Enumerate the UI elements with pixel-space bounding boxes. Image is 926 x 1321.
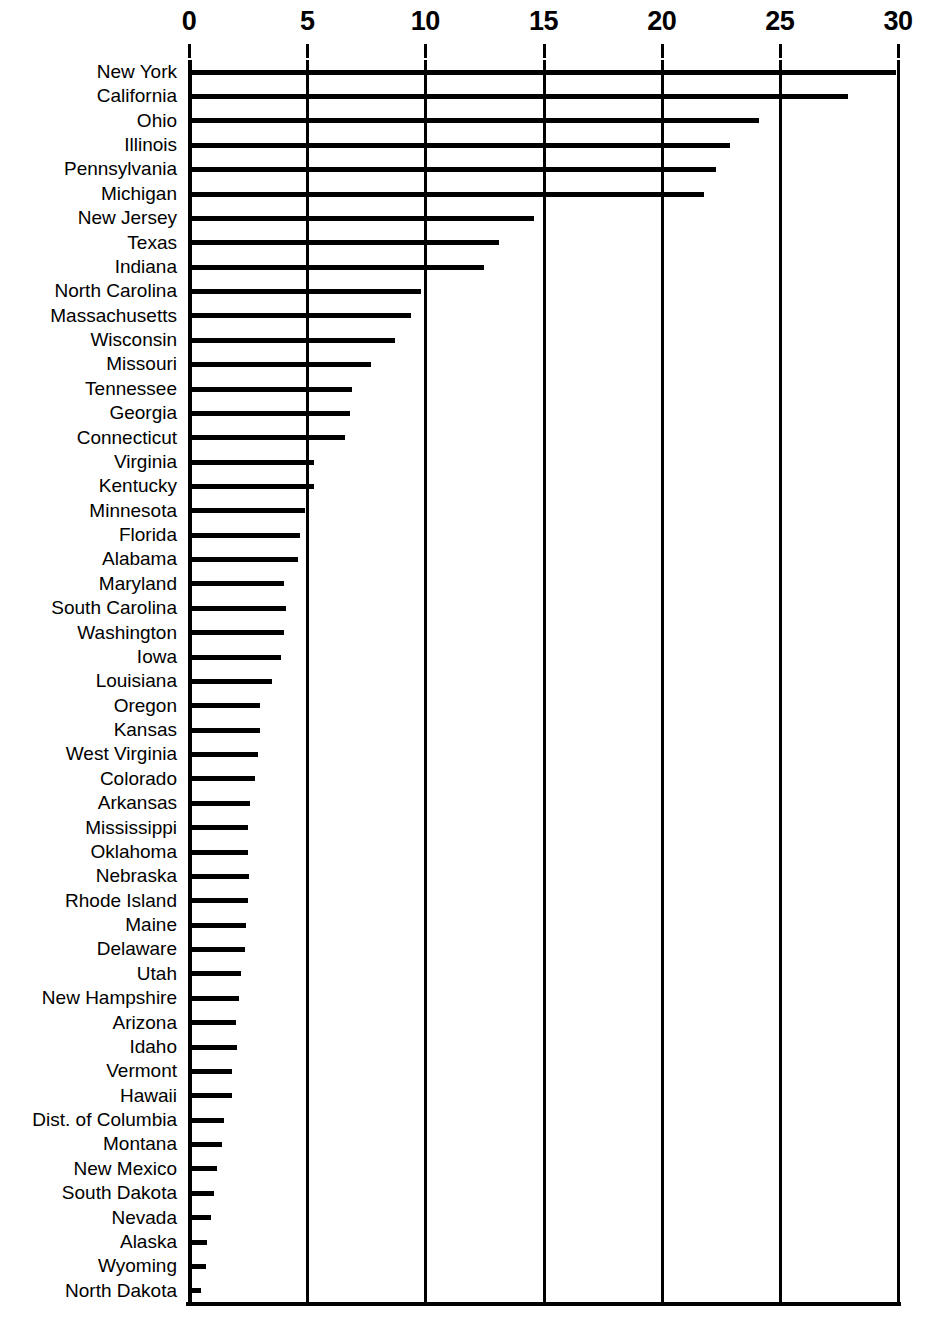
bar-row[interactable] xyxy=(189,304,898,328)
bar-row[interactable] xyxy=(189,1035,898,1059)
bar-row[interactable] xyxy=(189,791,898,815)
bar-row[interactable] xyxy=(189,1084,898,1108)
bar-row[interactable] xyxy=(189,182,898,206)
bar-row[interactable] xyxy=(189,840,898,864)
bar-row[interactable] xyxy=(189,986,898,1010)
bar-row[interactable] xyxy=(189,621,898,645)
bar-row[interactable] xyxy=(189,255,898,279)
bar-row[interactable] xyxy=(189,109,898,133)
bar[interactable] xyxy=(189,1093,232,1098)
bar-row[interactable] xyxy=(189,1254,898,1278)
bar[interactable] xyxy=(189,1118,224,1123)
bar-row[interactable] xyxy=(189,816,898,840)
bar[interactable] xyxy=(189,679,272,684)
bar[interactable] xyxy=(189,1142,222,1147)
bar[interactable] xyxy=(189,1166,217,1171)
bar-row[interactable] xyxy=(189,913,898,937)
bar-row[interactable] xyxy=(189,718,898,742)
bar-row[interactable] xyxy=(189,1059,898,1083)
bar-row[interactable] xyxy=(189,1011,898,1035)
bar[interactable] xyxy=(189,1288,201,1293)
bar[interactable] xyxy=(189,1020,236,1025)
bar[interactable] xyxy=(189,630,284,635)
bar[interactable] xyxy=(189,94,848,99)
bar[interactable] xyxy=(189,825,248,830)
bar[interactable] xyxy=(189,435,345,440)
bar[interactable] xyxy=(189,703,260,708)
bar[interactable] xyxy=(189,801,250,806)
bar[interactable] xyxy=(189,411,350,416)
bar[interactable] xyxy=(189,70,896,75)
bar[interactable] xyxy=(189,508,305,513)
bar[interactable] xyxy=(189,1240,207,1245)
bar[interactable] xyxy=(189,118,759,123)
bar[interactable] xyxy=(189,996,239,1001)
bar[interactable] xyxy=(189,460,314,465)
bar[interactable] xyxy=(189,216,534,221)
bar-row[interactable] xyxy=(189,426,898,450)
bar[interactable] xyxy=(189,533,300,538)
bar-row[interactable] xyxy=(189,572,898,596)
bar[interactable] xyxy=(189,606,286,611)
bar-row[interactable] xyxy=(189,547,898,571)
bar[interactable] xyxy=(189,387,352,392)
bar[interactable] xyxy=(189,265,484,270)
bar-row[interactable] xyxy=(189,523,898,547)
bar-row[interactable] xyxy=(189,645,898,669)
bar[interactable] xyxy=(189,338,395,343)
bar-row[interactable] xyxy=(189,231,898,255)
bar-row[interactable] xyxy=(189,60,898,84)
bar-row[interactable] xyxy=(189,1157,898,1181)
bar[interactable] xyxy=(189,1215,211,1220)
bar[interactable] xyxy=(189,1045,237,1050)
bar-row[interactable] xyxy=(189,1279,898,1303)
bar-row[interactable] xyxy=(189,1108,898,1132)
bar[interactable] xyxy=(189,1264,206,1269)
bar[interactable] xyxy=(189,971,241,976)
bar[interactable] xyxy=(189,240,499,245)
bar[interactable] xyxy=(189,728,260,733)
bar[interactable] xyxy=(189,776,255,781)
bar[interactable] xyxy=(189,923,246,928)
bar-row[interactable] xyxy=(189,937,898,961)
bar[interactable] xyxy=(189,752,258,757)
bar-row[interactable] xyxy=(189,157,898,181)
bar[interactable] xyxy=(189,655,281,660)
bar[interactable] xyxy=(189,898,248,903)
bar-row[interactable] xyxy=(189,864,898,888)
bar-row[interactable] xyxy=(189,889,898,913)
bar-row[interactable] xyxy=(189,352,898,376)
bar[interactable] xyxy=(189,581,284,586)
bar-row[interactable] xyxy=(189,206,898,230)
bar-row[interactable] xyxy=(189,474,898,498)
bar-row[interactable] xyxy=(189,694,898,718)
bar-row[interactable] xyxy=(189,1181,898,1205)
bar-row[interactable] xyxy=(189,742,898,766)
bar[interactable] xyxy=(189,362,371,367)
bar-row[interactable] xyxy=(189,1132,898,1156)
bar[interactable] xyxy=(189,947,245,952)
bar[interactable] xyxy=(189,850,248,855)
bar[interactable] xyxy=(189,874,249,879)
bar-row[interactable] xyxy=(189,84,898,108)
bar[interactable] xyxy=(189,1191,214,1196)
bar-row[interactable] xyxy=(189,596,898,620)
bar[interactable] xyxy=(189,557,298,562)
bar-row[interactable] xyxy=(189,450,898,474)
bar-row[interactable] xyxy=(189,767,898,791)
bar[interactable] xyxy=(189,484,314,489)
bar-row[interactable] xyxy=(189,133,898,157)
bar-row[interactable] xyxy=(189,499,898,523)
bar-row[interactable] xyxy=(189,1206,898,1230)
bar-row[interactable] xyxy=(189,962,898,986)
bar-row[interactable] xyxy=(189,669,898,693)
bar[interactable] xyxy=(189,289,421,294)
bar-row[interactable] xyxy=(189,279,898,303)
bar-row[interactable] xyxy=(189,328,898,352)
bar[interactable] xyxy=(189,313,411,318)
bar-row[interactable] xyxy=(189,401,898,425)
bar[interactable] xyxy=(189,143,730,148)
bar[interactable] xyxy=(189,192,704,197)
bar[interactable] xyxy=(189,1069,232,1074)
bar[interactable] xyxy=(189,167,716,172)
